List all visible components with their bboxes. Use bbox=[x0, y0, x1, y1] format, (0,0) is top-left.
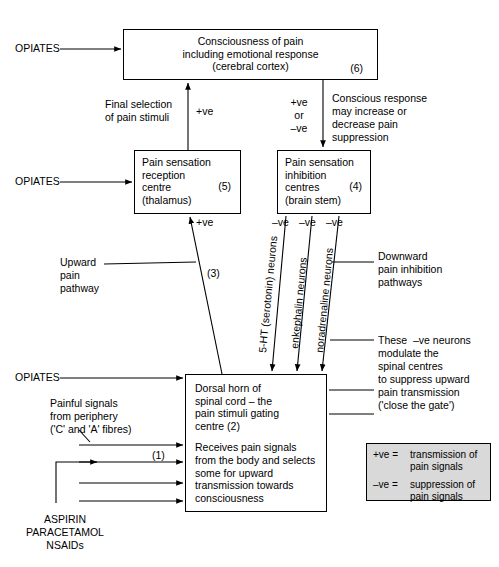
label-conscious-response-line2: may increase or bbox=[332, 105, 407, 118]
legend-plus-def-line1: transmission of bbox=[410, 449, 477, 461]
label-modulate-line2: modulate the bbox=[378, 347, 439, 360]
box2-p1-line4: centre (2) bbox=[195, 420, 326, 433]
box4-number: (4) bbox=[349, 180, 362, 192]
label-conscious-response-line1: Conscious response bbox=[332, 92, 427, 105]
arrow-upward-pain-pathway bbox=[190, 217, 222, 374]
legend-row-positive: +ve = transmission of pain signals bbox=[367, 444, 490, 472]
label-painful-signals-line1: Painful signals bbox=[50, 397, 118, 410]
label-final-selection-line2: of pain stimuli bbox=[105, 111, 169, 124]
box5-line4: (thalamus) bbox=[142, 194, 240, 207]
label-final-selection-line1: Final selection bbox=[105, 98, 172, 111]
label-painful-signals-line2: from periphery bbox=[50, 410, 118, 423]
label-sign-plus: +ve bbox=[284, 96, 314, 109]
legend-minus-symbol: –ve = bbox=[367, 479, 410, 502]
label-painful-signals-line3: ('C' and 'A' fibres) bbox=[50, 423, 132, 436]
legend-plus-definition: transmission of pain signals bbox=[410, 449, 477, 472]
label-opiates-thalamus: OPIATES bbox=[15, 175, 60, 188]
label-modulate-line3: spinal centres bbox=[378, 360, 443, 373]
box6-number: (6) bbox=[350, 62, 363, 74]
label-upward-pathway-line2: pain bbox=[60, 269, 80, 282]
label-minus-ve-enkephalin: –ve bbox=[299, 216, 316, 229]
box5-number: (5) bbox=[218, 180, 231, 192]
label-modulate-line1: These –ve neurons bbox=[378, 334, 471, 347]
pain-pathway-diagram: Consciousness of pain including emotiona… bbox=[0, 0, 499, 567]
box2-p1-line2: spinal cord – the bbox=[195, 395, 326, 408]
label-upward-pathway-line3: pathway bbox=[60, 282, 99, 295]
box2-p2-line4: transmission towards bbox=[195, 479, 326, 492]
label-pathway-number-3: (3) bbox=[207, 267, 220, 280]
box4-line4: (brain stem) bbox=[285, 194, 370, 207]
legend-plus-symbol: +ve = bbox=[367, 449, 410, 472]
label-sign-minus: –ve bbox=[284, 122, 314, 135]
legend-minus-def-line1: suppression of bbox=[410, 479, 475, 491]
label-modulate-line4: to suppress upward bbox=[378, 373, 470, 386]
label-conscious-response-line3: decrease pain bbox=[332, 118, 398, 131]
label-opiates-cortex: OPIATES bbox=[15, 42, 60, 55]
label-opiates-dorsal-horn: OPIATES bbox=[15, 371, 60, 384]
box2-p2-line1: Receives pain signals bbox=[195, 441, 326, 454]
box6-line2: including emotional response bbox=[124, 48, 377, 61]
label-plus-ve-from-dorsal-horn: +ve bbox=[196, 216, 213, 229]
label-upward-pathway-line1: Upward bbox=[60, 256, 96, 269]
legend-row-negative: –ve = suppression of pain signals bbox=[367, 472, 490, 502]
box-dorsal-horn-spinal-cord: Dorsal horn of spinal cord – the pain st… bbox=[185, 374, 327, 512]
label-downward-line1: Downward bbox=[378, 250, 428, 263]
label-aspirin: ASPIRIN bbox=[10, 513, 120, 526]
label-modulate-line5: pain transmission bbox=[378, 386, 460, 399]
box5-line1: Pain sensation bbox=[142, 156, 240, 169]
legend-minus-definition: suppression of pain signals bbox=[410, 479, 475, 502]
box2-p1-line3: pain stimuli gating bbox=[195, 407, 326, 420]
label-downward-line2: pain inhibition bbox=[378, 263, 442, 276]
label-minus-ve-serotonin: –ve bbox=[272, 216, 289, 229]
box2-p2-line5: consciousness bbox=[195, 492, 326, 505]
box2-p2-line3: some for upward bbox=[195, 467, 326, 480]
label-conscious-response-line4: suppression bbox=[332, 131, 389, 144]
leader-upward-pathway bbox=[104, 262, 196, 264]
box6-line3: (cerebral cortex) bbox=[124, 60, 377, 73]
label-minus-ve-noradrenaline: –ve bbox=[326, 216, 343, 229]
label-modulate-line6: ('close the gate') bbox=[378, 399, 454, 412]
legend-minus-def-line2: pain signals bbox=[410, 491, 475, 503]
label-nsaids: NSAIDs bbox=[10, 539, 120, 552]
box6-line1: Consciousness of pain bbox=[124, 35, 377, 48]
label-paracetamol: PARACETAMOL bbox=[10, 526, 120, 539]
box-pain-sensation-reception-centre: Pain sensation reception centre (thalamu… bbox=[134, 150, 241, 214]
label-pathway-number-1: (1) bbox=[152, 449, 165, 462]
box2-p1-line1: Dorsal horn of bbox=[195, 382, 326, 395]
box-consciousness-of-pain: Consciousness of pain including emotiona… bbox=[123, 29, 378, 80]
label-sign-or: or bbox=[284, 109, 314, 122]
box2-p2-line2: from the body and selects bbox=[195, 454, 326, 467]
legend-box: +ve = transmission of pain signals –ve =… bbox=[366, 443, 491, 501]
label-plus-ve-to-cortex: +ve bbox=[196, 105, 213, 118]
legend-plus-def-line2: pain signals bbox=[410, 461, 477, 473]
label-downward-line3: pathways bbox=[378, 276, 422, 289]
box4-line1: Pain sensation bbox=[285, 156, 370, 169]
box-pain-sensation-inhibition-centres: Pain sensation inhibition centres (brain… bbox=[277, 150, 371, 214]
